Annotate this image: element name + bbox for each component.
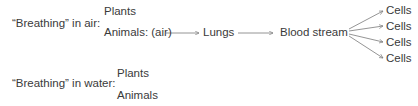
air-plants: Plants xyxy=(104,5,136,18)
lungs-label: Lungs xyxy=(203,26,234,39)
air-animals: Animals: (air) xyxy=(104,26,172,39)
arrows-layer xyxy=(0,0,418,106)
cells-label-3: Cells xyxy=(386,36,412,49)
blood-stream-label: Blood stream xyxy=(280,26,348,39)
arrow-blood-to-cells-1 xyxy=(349,11,383,29)
air-heading: “Breathing” in air: xyxy=(12,17,100,30)
water-animals: Animals xyxy=(117,89,158,102)
arrow-blood-to-cells-3 xyxy=(349,34,383,42)
cells-label-2: Cells xyxy=(386,20,412,33)
water-plants: Plants xyxy=(117,67,149,80)
cells-label-4: Cells xyxy=(386,52,412,65)
water-heading: “Breathing” in water: xyxy=(12,77,116,90)
arrow-blood-to-cells-4 xyxy=(349,36,383,58)
cells-label-1: Cells xyxy=(386,4,412,17)
